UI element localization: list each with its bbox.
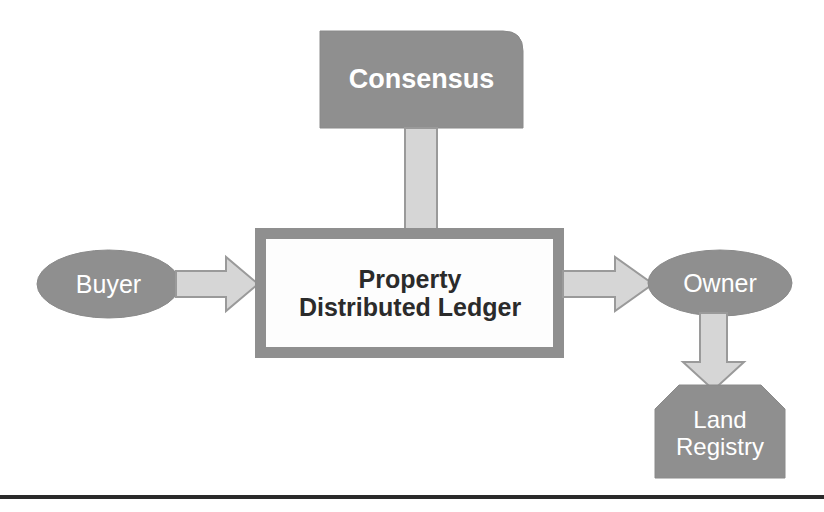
diagram-canvas: Consensus Buyer Property Distributed Led… [0,0,824,512]
node-consensus-shape[interactable] [320,31,523,128]
diagram-shapes [0,0,824,512]
node-ledger-inner [266,239,553,347]
node-land-registry-shape[interactable] [655,385,785,478]
arrow-buyer-to-ledger [176,257,258,311]
bottom-rule [0,495,824,499]
node-buyer-shape[interactable] [37,250,180,318]
arrow-owner-to-land-registry [683,313,744,390]
arrow-ledger-to-owner [563,257,653,311]
node-owner-shape[interactable] [648,250,792,316]
